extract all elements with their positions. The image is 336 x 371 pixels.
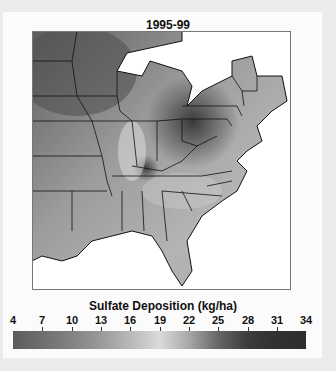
- tick-label: 25: [212, 314, 224, 326]
- colorbar-label: Sulfate Deposition (kg/ha): [0, 299, 326, 313]
- tick-label: 28: [242, 314, 254, 326]
- tick-label: 16: [124, 314, 136, 326]
- tick-label: 19: [154, 314, 166, 326]
- tick-label: 7: [39, 314, 45, 326]
- tick-label: 31: [271, 314, 283, 326]
- deposition-map: [32, 31, 291, 290]
- colorbar-gradient: [13, 331, 306, 349]
- tick-label: 10: [66, 314, 78, 326]
- tick-label: 34: [300, 314, 312, 326]
- colorbar-ticks: 4 7 10 13 16 19 22 25 28 31 34: [0, 314, 336, 332]
- tick-label: 4: [10, 314, 16, 326]
- map-title: 1995-99: [0, 18, 336, 32]
- tick-label: 13: [95, 314, 107, 326]
- tick-label: 22: [183, 314, 195, 326]
